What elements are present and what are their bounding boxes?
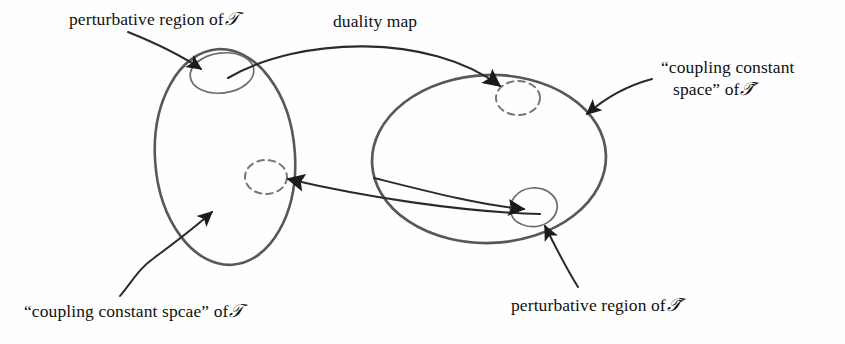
leader-perturbative-left: [128, 32, 201, 69]
label-perturbative-region-left: perturbative region of𝒯: [69, 8, 239, 31]
label-coupling-right-line2-wrap: space” of𝒯̃: [661, 78, 795, 101]
script-symbol-t: 𝒯: [224, 8, 239, 29]
label-perturbative-region-right-text: perturbative region of: [511, 295, 666, 315]
leader-coupling-right: [587, 79, 652, 114]
script-symbol-t-tilde: 𝒯̃: [666, 294, 681, 315]
label-duality-map: duality map: [333, 11, 417, 32]
script-symbol-t: 𝒯: [228, 300, 243, 321]
diagram-graphics: [0, 0, 845, 344]
label-coupling-right-line2: space” of: [673, 79, 739, 99]
inverse-duality-arrow: [288, 179, 540, 214]
label-coupling-left-text: “coupling constant spcae” of: [24, 301, 228, 321]
right-dashed-image-ellipse: [496, 81, 540, 115]
duality-map-arrow: [228, 46, 500, 86]
left-coupling-space-ellipse: [148, 44, 303, 269]
right-perturbative-region-ellipse: [510, 188, 557, 227]
right-coupling-space-ellipse: [369, 71, 609, 247]
arrow-into-right-perturbative: [374, 178, 524, 209]
label-coupling-constant-space-left: “coupling constant spcae” of𝒯: [24, 300, 244, 323]
label-perturbative-region-right: perturbative region of𝒯̃: [511, 294, 681, 317]
diagram-canvas: perturbative region of𝒯 duality map “cou…: [0, 0, 845, 344]
script-symbol-t-tilde: 𝒯̃: [739, 78, 754, 99]
label-coupling-constant-space-right: “coupling constant space” of𝒯̃: [661, 57, 795, 101]
label-duality-map-text: duality map: [333, 11, 417, 31]
label-coupling-right-line1: “coupling constant: [661, 57, 795, 77]
leader-perturbative-right: [545, 226, 578, 287]
left-dashed-image-ellipse: [245, 160, 287, 194]
label-perturbative-region-left-text: perturbative region of: [69, 9, 224, 29]
